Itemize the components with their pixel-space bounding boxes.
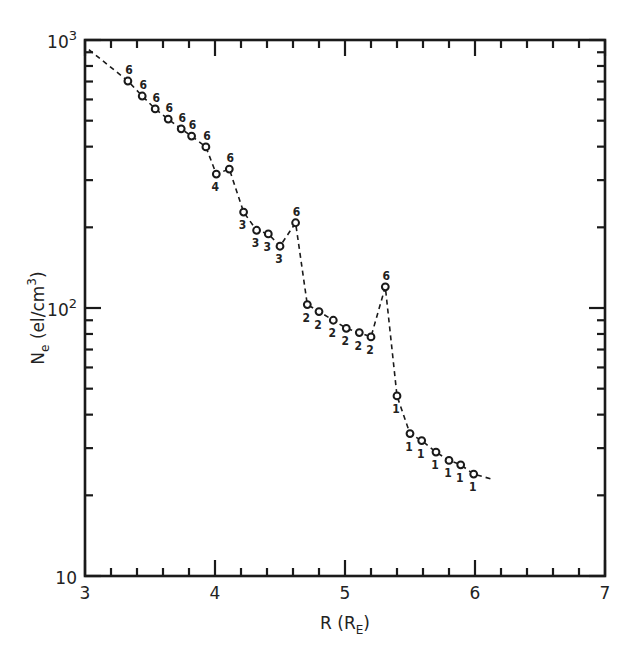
data-point-marker xyxy=(203,144,210,151)
data-point-marker xyxy=(457,461,464,468)
plot-frame xyxy=(85,40,605,576)
data-point-marker xyxy=(418,437,425,444)
point-annotation: 6 xyxy=(189,118,197,132)
data-point-marker xyxy=(470,471,477,478)
x-tick-label: 5 xyxy=(340,583,351,603)
data-point-marker xyxy=(265,231,272,238)
dashed-line xyxy=(89,50,492,479)
point-annotation: 3 xyxy=(264,240,272,254)
x-tick-label: 4 xyxy=(210,583,221,603)
point-annotation: 3 xyxy=(252,236,260,250)
point-annotation: 1 xyxy=(417,447,425,461)
point-annotation: 1 xyxy=(444,466,452,480)
point-annotation: 6 xyxy=(152,91,160,105)
y-axis-title: Ne (el/cm3) xyxy=(25,271,52,364)
data-point-marker xyxy=(213,171,220,178)
point-annotation: 3 xyxy=(275,252,283,266)
point-annotation: 6 xyxy=(125,63,133,77)
point-annotation: 6 xyxy=(383,269,391,283)
data-point-marker xyxy=(226,166,233,173)
point-annotation: 1 xyxy=(431,458,439,472)
x-tick-label: 3 xyxy=(80,583,91,603)
point-annotation: 1 xyxy=(469,480,477,494)
data-point-marker xyxy=(240,209,247,216)
plot-border xyxy=(85,40,605,576)
point-annotation: 3 xyxy=(239,218,247,232)
data-point-marker xyxy=(433,449,440,456)
x-tick-label: 6 xyxy=(470,583,481,603)
data-point-marker xyxy=(304,301,311,308)
point-annotation: 2 xyxy=(366,343,374,357)
point-annotation: 1 xyxy=(405,440,413,454)
data-point-marker xyxy=(343,325,350,332)
point-annotation: 2 xyxy=(329,326,337,340)
data-point-marker xyxy=(382,283,389,290)
data-point-marker xyxy=(178,125,185,132)
x-tick-labels: 34567 xyxy=(80,583,611,603)
data-point-marker xyxy=(139,93,146,100)
point-annotation: 6 xyxy=(178,111,186,125)
y-tick-label: 10 xyxy=(55,568,77,588)
point-annotation: 2 xyxy=(303,311,311,325)
point-annotation: 1 xyxy=(392,402,400,416)
point-annotation: 6 xyxy=(165,101,173,115)
data-point-marker xyxy=(446,457,453,464)
data-point-marker xyxy=(253,227,260,234)
point-annotation: 1 xyxy=(456,471,464,485)
data-point-marker xyxy=(368,334,375,341)
point-annotation: 6 xyxy=(203,129,211,143)
point-annotation: 2 xyxy=(342,334,350,348)
point-annotation: 4 xyxy=(212,180,220,194)
data-point-marker xyxy=(330,317,337,324)
data-point-marker xyxy=(125,78,132,85)
x-axis-title: R (RE) xyxy=(320,613,370,637)
data-series: 6666666463333622222261111111 xyxy=(89,50,492,494)
data-point-marker xyxy=(165,116,172,123)
data-point-marker xyxy=(152,106,159,113)
point-annotation: 2 xyxy=(314,318,322,332)
data-point-marker xyxy=(316,308,323,315)
axis-ticks xyxy=(85,40,605,576)
data-point-marker xyxy=(394,392,401,399)
point-annotation: 6 xyxy=(293,205,301,219)
x-tick-label: 7 xyxy=(600,583,611,603)
data-point-marker xyxy=(407,430,414,437)
data-point-marker xyxy=(356,329,363,336)
point-annotation: 2 xyxy=(355,339,363,353)
data-point-marker xyxy=(292,219,299,226)
point-annotation: 6 xyxy=(139,78,147,92)
point-annotation: 6 xyxy=(227,151,235,165)
data-point-marker xyxy=(188,133,195,140)
y-tick-label: 102 xyxy=(47,296,77,320)
y-tick-labels: 10102103 xyxy=(47,28,77,588)
y-tick-label: 103 xyxy=(47,28,77,52)
data-point-marker xyxy=(277,243,284,250)
chart: 34567 10102103 6666666463333622222261111… xyxy=(0,0,635,664)
